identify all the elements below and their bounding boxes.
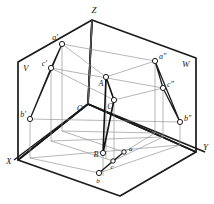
point-label-c-prime: c' — [42, 59, 48, 68]
h-plane-outline — [18, 104, 196, 196]
axis-label-x: X — [5, 156, 12, 166]
axis-label-z: Z — [91, 5, 97, 15]
grid-h-left-a — [62, 131, 124, 152]
descriptive-geometry-diagram: Z X Y O V W A B C a' b' c' aʺ bʺ cʺ a b … — [0, 0, 214, 204]
grid-v-a — [62, 44, 155, 61]
point-label-B: B — [94, 150, 99, 159]
marker-c-prime — [48, 65, 53, 70]
marker-c-double-prime — [160, 85, 165, 90]
point-label-b-prime: b' — [20, 110, 26, 119]
grid-h-a — [62, 131, 155, 133]
figure-canvas: Z X Y O V W A B C a' b' c' aʺ bʺ cʺ a b … — [0, 0, 214, 204]
v-projection-triangle — [30, 44, 62, 119]
marker-b-double-prime — [177, 119, 182, 124]
point-label-a-double-prime: aʺ — [159, 52, 167, 61]
point-label-a-prime: a' — [52, 33, 58, 42]
point-label-A: A — [98, 79, 104, 88]
grid-depth-a — [62, 44, 106, 77]
axis-label-y: Y — [203, 142, 209, 152]
origin-label: O — [77, 104, 83, 113]
grid-h-front-c — [113, 137, 163, 161]
marker-B — [100, 150, 105, 155]
point-label-a-lower: a — [129, 145, 133, 153]
marker-b-prime — [27, 116, 32, 121]
grid-h-left-b — [30, 158, 99, 173]
point-label-b-lower: b — [96, 177, 100, 185]
point-label-C: C — [107, 102, 113, 111]
plane-label-w: W — [182, 59, 191, 69]
point-label-b-double-prime: bʺ — [184, 114, 192, 123]
plane-label-v: V — [23, 63, 30, 73]
w-projection-triangle — [155, 61, 180, 122]
marker-a-double-prime — [152, 58, 157, 63]
grid-depth-a2 — [106, 61, 155, 77]
grid-origin-up — [88, 20, 92, 104]
grid-depth-c2 — [114, 88, 163, 100]
marker-a-prime — [59, 41, 64, 46]
point-label-c-double-prime: cʺ — [167, 80, 175, 89]
point-label-c-lower: c — [110, 163, 114, 171]
marker-A — [103, 74, 108, 79]
marker-b-lower — [96, 170, 101, 175]
marker-a-lower — [122, 150, 126, 154]
